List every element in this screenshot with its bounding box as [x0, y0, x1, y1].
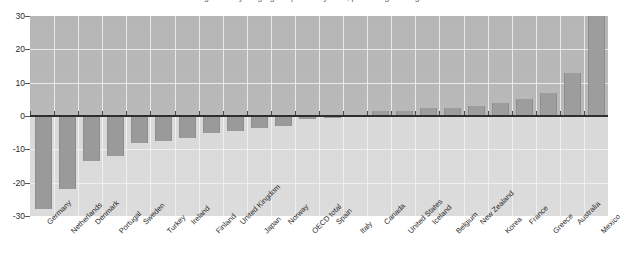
bar: [564, 73, 581, 116]
bar: [107, 116, 124, 156]
bar: [155, 116, 172, 141]
y-axis-tick-label: 0: [0, 111, 25, 121]
category-tick: [343, 111, 344, 115]
category-tick: [126, 111, 127, 115]
category-tick: [54, 111, 55, 115]
y-axis-tick-label: 30: [0, 11, 25, 21]
category-tick: [247, 111, 248, 115]
bar: [275, 116, 292, 126]
category-tick: [584, 111, 585, 115]
bar: [203, 116, 220, 133]
x-axis-category-labels: GermanyNetherlandsDenmarkPortugalSwedenT…: [30, 218, 608, 265]
category-tick: [199, 111, 200, 115]
bar: [59, 116, 76, 189]
zero-axis-line: [30, 115, 608, 117]
bar: [540, 93, 557, 116]
category-tick: [150, 111, 151, 115]
y-axis-tick-label: 10: [0, 78, 25, 88]
category-tick: [319, 111, 320, 115]
x-axis-label: Japan: [262, 215, 283, 236]
category-tick: [512, 111, 513, 115]
bar: [83, 116, 100, 161]
x-axis-label: Korea: [503, 215, 524, 236]
category-tick: [415, 111, 416, 115]
bar: [251, 116, 268, 128]
bar: [131, 116, 148, 143]
category-tick: [391, 111, 392, 115]
category-tick: [223, 111, 224, 115]
category-tick: [295, 111, 296, 115]
category-tick: [30, 111, 31, 115]
category-tick: [367, 111, 368, 115]
y-axis-tick-label: -10: [0, 144, 25, 154]
y-axis-tick-label: -30: [0, 211, 25, 221]
y-axis-tick: [25, 216, 30, 217]
bar: [35, 116, 52, 209]
y-axis-tick-label: -20: [0, 178, 25, 188]
category-tick: [464, 111, 465, 115]
y-axis-tick-label: 20: [0, 44, 25, 54]
bar: [227, 116, 244, 131]
category-tick: [78, 111, 79, 115]
x-axis-label: Turkey: [165, 213, 187, 235]
bar: [179, 116, 196, 138]
category-tick: [439, 111, 440, 115]
category-tick: [102, 111, 103, 115]
category-tick: [560, 111, 561, 115]
bar: [588, 16, 605, 116]
chart-title: Change in the young-age dependency ratio…: [0, 0, 608, 2]
category-tick: [536, 111, 537, 115]
category-tick: [175, 111, 176, 115]
category-tick: [271, 111, 272, 115]
category-tick: [488, 111, 489, 115]
plot-area: [30, 16, 608, 216]
bar: [516, 99, 533, 116]
bar: [492, 103, 509, 116]
x-axis-label: Italy: [358, 219, 374, 235]
